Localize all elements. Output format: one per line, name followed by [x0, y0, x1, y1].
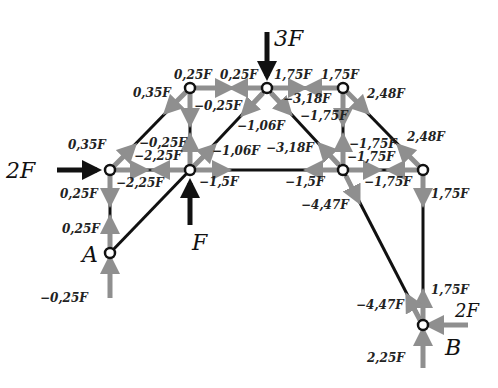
force-labels: 0,35F 0,25F 0,25F 1,75F 1,75F −0,25F −3,…	[40, 68, 470, 365]
arrow-B-diag	[410, 301, 420, 320]
node-C	[185, 165, 195, 175]
force-label: 0,35F	[68, 138, 107, 152]
force-label: 0,25F	[62, 222, 101, 236]
arrow-TR-diag	[347, 92, 363, 108]
force-label: −1,75F	[300, 109, 349, 123]
arrow-C-diag	[194, 150, 210, 166]
node-L	[105, 165, 115, 175]
force-label: 2,48F	[366, 87, 406, 101]
node-TM	[262, 83, 272, 93]
arrow-R-diag-down	[346, 176, 356, 196]
node-R	[338, 165, 348, 175]
force-label: −1,75F	[364, 175, 413, 189]
node-B	[418, 320, 428, 330]
load-label-3F: 3F	[274, 26, 304, 51]
force-label: −1,06F	[237, 119, 286, 133]
arrow-TM-diag-left	[247, 93, 263, 110]
force-label: −1,75F	[347, 150, 396, 164]
force-label: −0,25F	[139, 136, 188, 150]
force-label: 2,25F	[366, 351, 406, 365]
force-label: −0,25F	[40, 291, 89, 305]
force-label: 1,75F	[274, 68, 313, 82]
arrow-RR-diag	[403, 150, 419, 166]
force-label: 1,75F	[431, 283, 470, 297]
force-label: −3,18F	[266, 141, 315, 155]
node-RR	[418, 165, 428, 175]
arrow-R-diag-up	[324, 149, 339, 165]
force-label: 1,75F	[321, 68, 360, 82]
force-label: −3,18F	[283, 92, 332, 106]
node-A	[105, 248, 115, 258]
force-label: −4,47F	[301, 198, 350, 212]
force-label: 0,25F	[174, 68, 213, 82]
arrow-TL-diag	[170, 92, 186, 108]
load-label-F: F	[191, 230, 208, 255]
node-label-B: B	[444, 335, 461, 360]
force-label: 1,75F	[431, 187, 470, 201]
force-label: −1,5F	[285, 175, 326, 189]
force-label: −1,75F	[349, 137, 398, 151]
load-label-2F-left: 2F	[5, 158, 36, 183]
node-TR	[338, 83, 348, 93]
force-label: −2,25F	[134, 149, 183, 163]
arrow-L-diag	[114, 150, 130, 166]
force-label: 2,48F	[406, 130, 446, 144]
force-label: −0,25F	[194, 99, 243, 113]
force-label: 0,25F	[60, 187, 99, 201]
force-label: 0,25F	[220, 68, 259, 82]
load-label-2F-right: 2F	[454, 300, 480, 321]
truss-diagram: 3F 2F F 2F A B 0,35F 0,25F 0,25F 1,75F 1…	[0, 0, 498, 388]
force-label: −1,06F	[212, 144, 261, 158]
node-TL	[185, 83, 195, 93]
force-label: 0,35F	[133, 86, 172, 100]
node-label-A: A	[80, 242, 98, 267]
force-label: −2,25F	[116, 176, 165, 190]
force-label: −4,47F	[356, 298, 405, 312]
force-label: −1,5F	[199, 175, 240, 189]
